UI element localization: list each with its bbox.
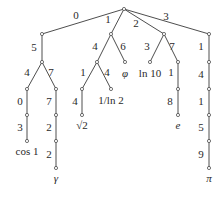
tree-node [25, 113, 28, 116]
tree-node [25, 139, 28, 142]
leaf-labels: cos 1γ√21/ln 2φln 10eπ [16, 67, 213, 184]
tree-node [162, 32, 165, 35]
edge-digit-label: 2 [46, 121, 52, 133]
tree-node [148, 60, 151, 63]
tree-node [54, 139, 57, 142]
edge-digit-label: 0 [73, 9, 79, 21]
tree-node [207, 87, 210, 90]
tree-node [176, 87, 179, 90]
edge-digit-label: 1 [198, 40, 204, 52]
constant-leaf-label: √2 [76, 119, 88, 131]
edge-digit-label: 4 [198, 68, 204, 80]
tree-node [176, 60, 179, 63]
edge-labels: 05403772214144623718314159 [17, 9, 204, 160]
tree-node [207, 166, 210, 169]
edge-digit-label: 0 [17, 95, 23, 107]
edge-digit-label: 2 [133, 17, 139, 29]
tree-edge [150, 34, 164, 62]
tree-edge [124, 9, 164, 34]
constant-leaf-label: 1/ln 2 [98, 94, 123, 106]
edge-digit-label: 2 [46, 148, 52, 160]
tree-node [207, 32, 210, 35]
edge-digit-label: 1 [105, 13, 111, 25]
tree-node [123, 60, 126, 63]
tree-node [54, 166, 57, 169]
digit-tree-diagram: 05403772214144623718314159 cos 1γ√21/ln … [0, 0, 222, 198]
constant-leaf-label: φ [122, 67, 128, 79]
constant-leaf-label: ln 10 [139, 67, 162, 79]
tree-node [207, 113, 210, 116]
tree-node [40, 60, 43, 63]
edge-digit-label: 8 [167, 95, 173, 107]
tree-node [176, 113, 179, 116]
edge-digit-label: 1 [168, 66, 174, 78]
constant-leaf-label: π [206, 172, 212, 184]
edge-digit-label: 6 [120, 40, 126, 52]
edge-digit-label: 7 [169, 40, 175, 52]
tree-node [109, 32, 112, 35]
edge-digit-label: 3 [17, 121, 23, 133]
tree-edge [97, 34, 111, 62]
edge-digit-label: 5 [31, 41, 37, 53]
tree-node [40, 32, 43, 35]
edge-digit-label: 4 [92, 40, 98, 52]
edge-digit-label: 4 [72, 95, 78, 107]
tree-node [80, 87, 83, 90]
constant-leaf-label: cos 1 [16, 145, 39, 157]
edge-digit-label: 3 [144, 40, 150, 52]
tree-edge [42, 9, 124, 34]
tree-node [80, 113, 83, 116]
edge-digit-label: 1 [80, 66, 86, 78]
tree-node [54, 87, 57, 90]
root-node [122, 7, 125, 10]
edge-digit-label: 7 [48, 66, 54, 78]
edge-digit-label: 4 [104, 66, 110, 78]
edge-digit-label: 7 [46, 95, 52, 107]
edge-digit-label: 9 [198, 148, 204, 160]
tree-nodes [25, 7, 210, 169]
tree-node [207, 60, 210, 63]
tree-node [25, 87, 28, 90]
edge-digit-label: 1 [198, 95, 204, 107]
edge-digit-label: 5 [198, 121, 204, 133]
tree-node [54, 113, 57, 116]
constant-leaf-label: γ [54, 172, 59, 184]
tree-node [109, 87, 112, 90]
edge-digit-label: 3 [163, 10, 169, 22]
tree-node [95, 60, 98, 63]
edge-digit-label: 4 [24, 66, 30, 78]
tree-node [207, 139, 210, 142]
constant-leaf-label: e [176, 119, 181, 131]
